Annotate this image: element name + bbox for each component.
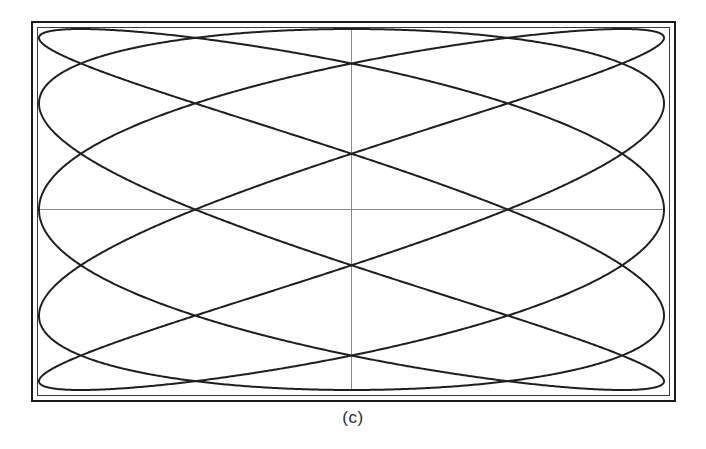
oscilloscope-screen	[37, 27, 670, 396]
figure-panel: (c)	[0, 0, 706, 449]
figure-caption: (c)	[0, 408, 706, 428]
lissajous-trace-svg	[38, 28, 665, 391]
oscilloscope-bezel	[31, 21, 676, 402]
